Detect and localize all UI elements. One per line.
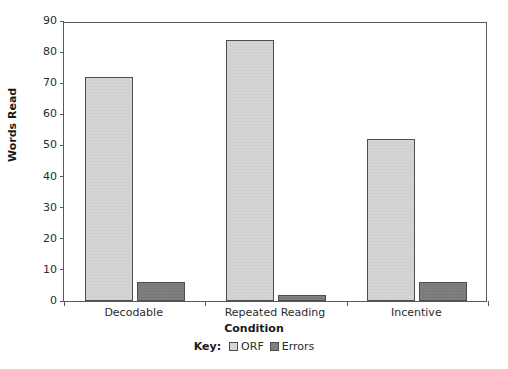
y-tick-mark bbox=[60, 114, 64, 115]
bar-errors-repeated-reading bbox=[278, 295, 326, 301]
y-tick-mark bbox=[60, 207, 64, 208]
x-category-label: Decodable bbox=[54, 306, 214, 319]
legend-swatch-orf-icon bbox=[229, 342, 238, 351]
y-tick-label: 40 bbox=[43, 169, 57, 185]
y-tick-mark bbox=[60, 83, 64, 84]
legend-swatch-errors-icon bbox=[270, 342, 279, 351]
legend-label-orf: ORF bbox=[241, 340, 264, 353]
bar-orf-incentive bbox=[367, 139, 415, 301]
legend-entry-orf: ORF bbox=[229, 340, 264, 353]
y-tick-label: 90 bbox=[43, 13, 57, 29]
y-axis-title: Words Read bbox=[6, 146, 19, 162]
y-tick-label: 10 bbox=[43, 262, 57, 278]
legend-label-errors: Errors bbox=[282, 340, 315, 353]
chart-legend: Key: ORF Errors bbox=[0, 340, 508, 353]
y-tick-label: 50 bbox=[43, 137, 57, 153]
bar-errors-decodable bbox=[137, 282, 185, 301]
x-axis-title: Condition bbox=[0, 322, 508, 335]
y-tick-mark bbox=[60, 145, 64, 146]
bar-chart-figure: Words Read 0102030405060708090 Decodable… bbox=[0, 0, 508, 369]
y-tick-mark bbox=[60, 238, 64, 239]
y-tick-mark bbox=[60, 21, 64, 22]
bar-orf-repeated-reading bbox=[226, 40, 274, 301]
y-tick-label: 80 bbox=[43, 44, 57, 60]
x-category-label: Repeated Reading bbox=[195, 306, 355, 319]
y-tick-mark bbox=[60, 269, 64, 270]
bar-errors-incentive bbox=[419, 282, 467, 301]
legend-key-label: Key: bbox=[194, 340, 221, 353]
x-category-label: Incentive bbox=[336, 306, 496, 319]
y-tick-mark bbox=[60, 176, 64, 177]
legend-entry-errors: Errors bbox=[270, 340, 315, 353]
y-tick-label: 60 bbox=[43, 106, 57, 122]
y-tick-label: 70 bbox=[43, 75, 57, 91]
y-tick-label: 30 bbox=[43, 200, 57, 216]
y-tick-label: 20 bbox=[43, 231, 57, 247]
bar-orf-decodable bbox=[85, 77, 133, 301]
y-tick-mark bbox=[60, 52, 64, 53]
plot-area: 0102030405060708090 bbox=[63, 22, 487, 302]
